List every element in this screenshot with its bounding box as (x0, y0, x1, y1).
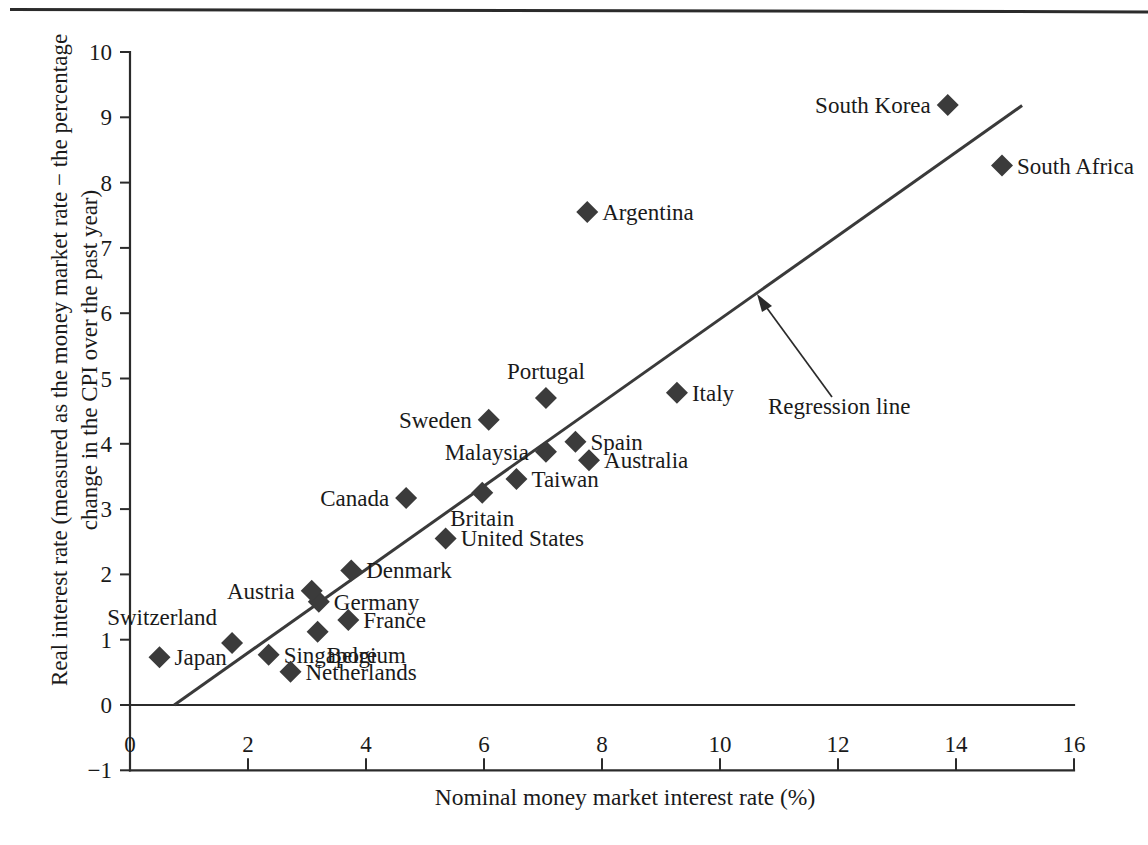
x-axis-title: Nominal money market interest rate (%) (435, 784, 815, 810)
y-tick-label: 7 (101, 236, 113, 261)
y-tick-label: 4 (101, 432, 113, 457)
data-point-marker (576, 201, 598, 223)
x-tick-label: 4 (360, 732, 372, 757)
data-point[interactable]: Japan (149, 645, 228, 670)
x-tick-label: 8 (596, 732, 608, 757)
data-point-marker (340, 559, 362, 581)
x-tick-label: 0 (124, 732, 136, 757)
data-point[interactable]: Austria (227, 579, 323, 604)
data-point-label: Britain (450, 506, 514, 531)
data-point[interactable]: Malaysia (445, 440, 557, 465)
data-point-marker (535, 387, 557, 409)
annotation-label: Regression line (768, 394, 910, 419)
data-point-label: Australia (604, 448, 688, 473)
x-tick-label: 2 (242, 732, 254, 757)
data-point-label: Malaysia (445, 440, 529, 465)
y-tick-label: 1 (101, 628, 113, 653)
y-tick-label: 0 (101, 693, 113, 718)
data-point[interactable]: Portugal (507, 359, 585, 409)
x-tick-label: 14 (945, 732, 969, 757)
data-point-marker (564, 431, 586, 453)
data-point-marker (535, 441, 557, 463)
data-point-label: Denmark (366, 558, 452, 583)
data-point[interactable]: Sweden (399, 408, 500, 433)
y-tick-label: 5 (101, 367, 113, 392)
data-point-label: Portugal (507, 359, 585, 384)
y-tick-label: 3 (101, 497, 113, 522)
data-point[interactable]: Taiwan (505, 467, 599, 492)
data-point-marker (307, 621, 329, 643)
regression-annotation: Regression line (757, 294, 910, 419)
data-point-marker (435, 527, 457, 549)
y-tick-label: 2 (101, 562, 113, 587)
data-point-marker (258, 644, 280, 666)
data-point-label: Argentina (602, 200, 694, 225)
y-tick-label: 6 (101, 301, 113, 326)
data-point[interactable]: France (337, 608, 426, 633)
y-tick-label: 10 (89, 40, 112, 65)
data-point[interactable]: South Korea (815, 93, 959, 118)
annotation-arrow-head (757, 294, 772, 312)
data-point-label: Austria (227, 579, 295, 604)
x-tick-label: 10 (709, 732, 732, 757)
y-tick-label: −1 (88, 758, 112, 783)
y-tick-label: 8 (101, 171, 113, 196)
data-point-label: Belgium (327, 643, 406, 668)
data-point-label: France (363, 608, 426, 633)
data-point-label: Japan (175, 645, 228, 670)
data-point-marker (666, 382, 688, 404)
data-point-marker (937, 94, 959, 116)
data-point-marker (505, 468, 527, 490)
data-point-label: Italy (692, 381, 735, 406)
chart-figure: Real interest rate (measured as the mone… (0, 0, 1148, 845)
data-point-label: South Korea (815, 93, 931, 118)
data-point-label: Switzerland (107, 605, 217, 630)
data-point[interactable]: Argentina (576, 200, 694, 225)
data-point-marker (471, 482, 493, 504)
data-point[interactable]: Italy (666, 381, 735, 406)
x-tick-label: 6 (478, 732, 490, 757)
data-point[interactable]: Denmark (340, 558, 452, 583)
data-point-marker (478, 409, 500, 431)
data-point[interactable]: Canada (320, 486, 417, 511)
data-point[interactable]: Britain (450, 482, 514, 531)
data-point-marker (991, 155, 1013, 177)
x-tick-label: 16 (1063, 732, 1086, 757)
scatter-plot: −10123456789100246810121416 JapanSwitzer… (0, 0, 1148, 845)
data-point[interactable]: South Africa (991, 154, 1134, 179)
data-point-label: Sweden (399, 408, 472, 433)
data-point-label: South Africa (1017, 154, 1134, 179)
data-point-label: Canada (320, 486, 389, 511)
axis-tick-labels: −10123456789100246810121416 (88, 40, 1086, 783)
data-point-marker (149, 646, 171, 668)
annotation-arrow-shaft (764, 304, 832, 397)
plot-axes (120, 52, 1074, 770)
y-tick-label: 9 (101, 105, 113, 130)
data-point-marker (395, 487, 417, 509)
x-tick-label: 12 (827, 732, 850, 757)
